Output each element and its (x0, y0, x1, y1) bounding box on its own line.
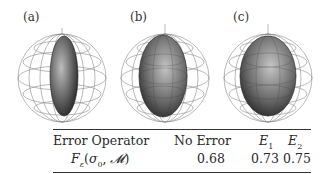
bloch-sphere-a-icon (0, 0, 111, 124)
header-error-operator: Error Operator (53, 133, 149, 148)
row-label-fidelity: Fε(σ0, 𝓜) (71, 151, 129, 169)
bloch-sphere-c-icon (213, 0, 333, 124)
table-bottom-rule (53, 172, 311, 173)
header-e2: E2 (288, 133, 302, 151)
table-top-rule (53, 129, 311, 130)
header-no-error: No Error (174, 133, 231, 148)
header-e1: E1 (259, 133, 273, 151)
panel-c: (c) (213, 0, 324, 124)
value-e1: 0.73 (251, 151, 279, 166)
value-no-error: 0.68 (197, 151, 225, 166)
panel-a: (a) (0, 0, 111, 124)
table-data-row: Fε(σ0, 𝓜) 0.68 0.73 0.75 (53, 151, 311, 169)
value-e2: 0.75 (283, 151, 311, 166)
table-header-row: Error Operator No Error E1 E2 (53, 133, 311, 151)
bloch-sphere-b-icon (111, 0, 222, 124)
panel-b: (b) (111, 0, 222, 124)
